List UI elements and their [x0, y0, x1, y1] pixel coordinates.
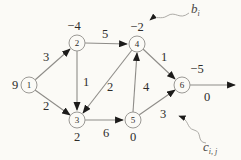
node-6-id: 6 [180, 80, 185, 90]
edge-cost-1-3: 2 [43, 99, 49, 113]
edge-5-4 [133, 53, 137, 112]
edge-4-6 [143, 49, 175, 79]
node-3-supply: 2 [74, 130, 80, 144]
edge-1-3 [35, 90, 70, 115]
node-6-supply: −5 [190, 62, 203, 76]
node-1-supply: 9 [12, 78, 18, 92]
squiggly-arrow-cij [179, 116, 206, 143]
annotation-cij: ci, j [203, 139, 218, 156]
node-4-supply: −2 [130, 20, 143, 34]
edge-cost-4-3: 2 [107, 80, 113, 94]
network-flow-figure: 1 2 3 4 5 6 9 −4 2 −2 0 −5 3 2 5 1 2 4 1… [0, 0, 241, 160]
edge-cost-2-4: 5 [102, 27, 108, 41]
edge-cost-1-2: 3 [43, 50, 49, 64]
node-3-id: 3 [75, 115, 80, 125]
edge-2-4 [85, 43, 127, 44]
edge-1-2 [35, 49, 70, 80]
squiggly-arrow-bi [150, 13, 189, 20]
edge-cost-4-6: 1 [161, 50, 167, 64]
edge-cost-5-4: 4 [143, 80, 150, 94]
edge-cost-2-3: 1 [83, 75, 89, 89]
edge-cost-3-5: 6 [103, 126, 109, 140]
edge-cost-5-6: 3 [160, 107, 166, 121]
annotation-bi: bi [191, 1, 200, 18]
node-2-supply: −4 [67, 19, 81, 33]
node-5-id: 5 [131, 115, 136, 125]
graph-canvas: 1 2 3 4 5 6 9 −4 2 −2 0 −5 3 2 5 1 2 4 1… [0, 0, 241, 160]
node-5-supply: 0 [130, 130, 136, 144]
node-1-id: 1 [27, 80, 32, 90]
edge-cost-6-out: 0 [204, 90, 210, 104]
node-4-id: 4 [135, 39, 140, 49]
node-2-id: 2 [75, 38, 80, 48]
